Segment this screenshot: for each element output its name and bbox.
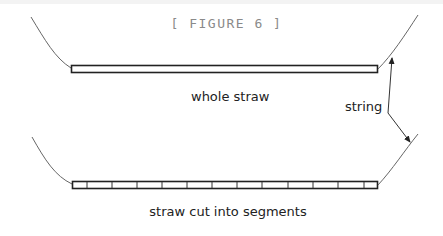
segmented-straw-group <box>32 134 418 189</box>
left-string-top <box>31 17 71 68</box>
left-string-bottom <box>32 137 72 184</box>
segmented-straw <box>73 182 378 189</box>
right-string-bottom <box>378 134 418 185</box>
right-string-top <box>378 15 418 69</box>
string-label: string <box>345 100 382 113</box>
whole-straw-group <box>31 15 418 73</box>
arrow-up-to-top-string <box>388 58 392 113</box>
string-pointer <box>388 58 410 142</box>
whole-straw-label: whole straw <box>191 90 269 103</box>
segmented-straw-label: straw cut into segments <box>0 205 443 218</box>
straw-diagram <box>0 0 443 236</box>
arrow-down-to-bottom-string <box>388 113 410 142</box>
whole-straw <box>72 66 378 73</box>
